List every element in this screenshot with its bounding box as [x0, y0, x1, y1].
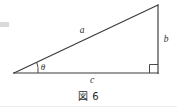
figure-container: a b c θ 図 6: [0, 0, 177, 107]
label-side-c: c: [90, 75, 95, 85]
right-angle-marker: [150, 65, 159, 74]
label-side-a: a: [80, 25, 85, 35]
figure-caption: 図 6: [0, 91, 177, 103]
label-side-b: b: [164, 34, 169, 44]
triangle-hypotenuse-side-a: [14, 5, 158, 73]
bottom-divider: [0, 106, 177, 107]
label-angle-theta: θ: [41, 62, 46, 72]
angle-theta-arc: [37, 62, 38, 73]
